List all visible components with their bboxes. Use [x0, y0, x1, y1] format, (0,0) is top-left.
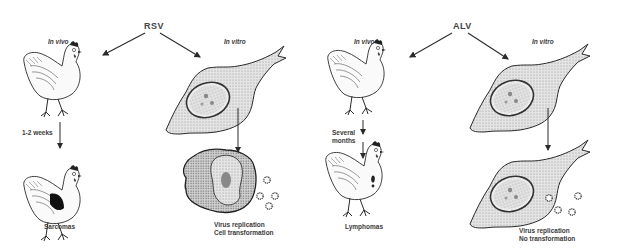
virus-particle-icon [546, 195, 552, 201]
virus-particle-icon [272, 193, 278, 199]
arrow-icon [468, 33, 508, 59]
virus-particle-icon [257, 193, 263, 199]
arrow-icon [160, 33, 200, 57]
diagram-art [0, 0, 619, 252]
virus-particle-icon [555, 207, 561, 213]
in-vitro-label: In vitro [224, 38, 246, 46]
outcome-sarcomas: Sarcomas [44, 223, 75, 231]
in-vivo-label: In vivo [354, 38, 375, 46]
chicken-icon [328, 39, 386, 115]
fibroblast-cell-icon [470, 44, 590, 132]
outcome-vitro-line1: Virus replication [214, 221, 265, 229]
arrow-icon [103, 33, 145, 55]
retrovirus-diagram: RSV In vivo In vitro 1-2 weeks Sarcomas … [0, 0, 619, 252]
outcome-lymphomas: Lymphomas [345, 223, 383, 231]
time-label-line2: months [332, 137, 355, 145]
arrow-icon [410, 33, 452, 57]
transformed-cell-icon [184, 149, 256, 212]
virus-particle-icon [266, 203, 272, 209]
time-label-line1: Several [332, 129, 355, 137]
outcome-vitro-line1: Virus replication [519, 227, 570, 235]
virus-particle-icon [575, 193, 581, 199]
outcome-vitro-line2: No transformation [519, 235, 575, 243]
alv-panel [326, 33, 590, 228]
virus-label-alv: ALV [453, 22, 472, 30]
rsv-panel [24, 33, 286, 241]
chicken-icon [24, 41, 82, 117]
virus-label-rsv: RSV [144, 22, 164, 30]
fibroblast-cell-icon [166, 46, 286, 134]
virus-particle-icon [264, 177, 270, 183]
in-vitro-label: In vitro [532, 38, 554, 46]
time-label: 1-2 weeks [22, 129, 53, 137]
virus-particle-icon [569, 209, 575, 215]
chicken-icon [326, 141, 384, 217]
in-vivo-label: In vivo [48, 38, 69, 46]
outcome-vitro-line2: Cell transformation [214, 229, 274, 237]
